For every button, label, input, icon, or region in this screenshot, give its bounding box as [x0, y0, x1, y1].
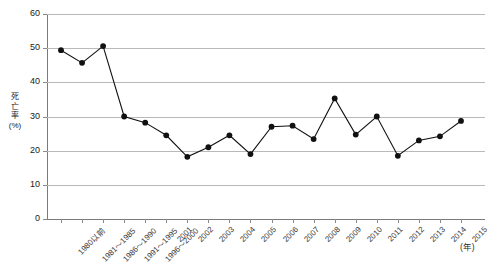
- x-tick-mark-19: [461, 219, 462, 223]
- x-tick-mark-15: [377, 219, 378, 223]
- data-point-2007: [290, 123, 296, 129]
- x-tick-mark-17: [419, 219, 420, 223]
- x-tick-label-2012: 2012: [407, 225, 426, 244]
- x-tick-mark-13: [335, 219, 336, 223]
- data-point-2010: [353, 132, 359, 138]
- x-tick-label-2007: 2007: [302, 225, 321, 244]
- data-point-2006: [269, 124, 275, 130]
- data-point-1981～1985: [79, 60, 85, 66]
- y-tick-label-40: 40: [18, 76, 40, 86]
- data-point-2002: [184, 154, 190, 160]
- x-tick-mark-18: [440, 219, 441, 223]
- x-tick-mark-9: [250, 219, 251, 223]
- x-tick-label-2003: 2003: [218, 225, 237, 244]
- x-tick-mark-16: [398, 219, 399, 223]
- y-tick-label-20: 20: [18, 145, 40, 155]
- x-tick-mark-12: [314, 219, 315, 223]
- x-tick-mark-5: [166, 219, 167, 223]
- y-tick-label-0: 0: [18, 213, 40, 223]
- data-point-2008: [311, 136, 317, 142]
- x-tick-mark-0: [61, 219, 62, 223]
- y-tick-label-30: 30: [18, 111, 40, 121]
- data-series: [47, 14, 485, 219]
- data-point-1991～1995: [121, 114, 127, 120]
- y-tick-label-60: 60: [18, 8, 40, 18]
- y-tick-label-10: 10: [18, 179, 40, 189]
- data-point-2011: [374, 114, 380, 120]
- x-tick-label-2010: 2010: [365, 225, 384, 244]
- data-point-2004: [227, 132, 233, 138]
- data-point-2009: [332, 95, 338, 101]
- data-point-2014: [437, 133, 443, 139]
- mortality-rate-line-chart: 死 亡 率 (%) 6050403020100 1980以前1981～19851…: [0, 0, 500, 278]
- x-tick-mark-3: [124, 219, 125, 223]
- y-axis-title-char-3: (%): [6, 121, 24, 131]
- x-tick-label-2013: 2013: [428, 225, 447, 244]
- x-tick-mark-7: [208, 219, 209, 223]
- x-tick-mark-14: [356, 219, 357, 223]
- x-tick-mark-10: [272, 219, 273, 223]
- data-point-2012: [395, 153, 401, 159]
- data-point-2001: [163, 132, 169, 138]
- data-point-2005: [248, 151, 254, 157]
- x-axis-unit-label: (年): [460, 240, 475, 252]
- data-point-2013: [416, 138, 422, 144]
- x-tick-label-2009: 2009: [344, 225, 363, 244]
- data-point-1986～1990: [100, 43, 106, 49]
- data-point-2015: [458, 118, 464, 124]
- x-tick-label-2004: 2004: [239, 225, 258, 244]
- x-tick-label-2011: 2011: [386, 225, 405, 244]
- data-point-1980以前: [58, 47, 64, 53]
- x-tick-mark-6: [187, 219, 188, 223]
- x-tick-mark-4: [145, 219, 146, 223]
- y-tick-label-50: 50: [18, 42, 40, 52]
- data-point-1996～2000: [142, 120, 148, 126]
- data-point-2003: [205, 144, 211, 150]
- x-tick-mark-11: [293, 219, 294, 223]
- x-tick-mark-2: [103, 219, 104, 223]
- y-axis-title-char-0: 死: [6, 92, 24, 102]
- x-tick-label-2002: 2002: [197, 225, 216, 244]
- x-tick-label-2008: 2008: [323, 225, 342, 244]
- x-tick-mark-1: [82, 219, 83, 223]
- x-tick-label-2005: 2005: [260, 225, 279, 244]
- x-tick-label-2006: 2006: [281, 225, 300, 244]
- x-tick-mark-8: [229, 219, 230, 223]
- series-line: [61, 46, 461, 157]
- y-tick-mark-0: [43, 219, 47, 220]
